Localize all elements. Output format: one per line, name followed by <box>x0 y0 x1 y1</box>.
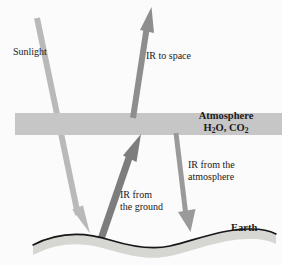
formula-h: H <box>204 122 212 133</box>
ir-to-space-arrow <box>133 7 154 118</box>
label-ir-from-atmosphere-line2: atmosphere <box>188 171 235 183</box>
label-ir-from-ground-line2: the ground <box>120 201 163 213</box>
label-ir-from-atmosphere: IR from the atmosphere <box>188 159 235 182</box>
label-ir-from-ground: IR from the ground <box>120 189 163 212</box>
label-ir-to-space: IR to space <box>146 50 191 62</box>
ir-from-atmosphere-arrow <box>176 133 196 232</box>
label-ir-from-ground-line1: IR from <box>120 189 163 201</box>
formula-c-sub: 2 <box>245 126 249 135</box>
greenhouse-effect-diagram: Sunlight IR to space Atmosphere H2O, CO2… <box>0 0 282 265</box>
label-ir-from-atmosphere-line1: IR from the <box>188 159 235 171</box>
label-earth: Earth <box>231 222 257 234</box>
label-atmosphere-formula: H2O, CO2 <box>180 122 272 135</box>
formula-tail: O, CO <box>216 122 245 133</box>
label-sunlight: Sunlight <box>13 46 47 58</box>
label-atmosphere-title: Atmosphere <box>180 110 272 122</box>
label-atmosphere: Atmosphere H2O, CO2 <box>180 110 272 135</box>
